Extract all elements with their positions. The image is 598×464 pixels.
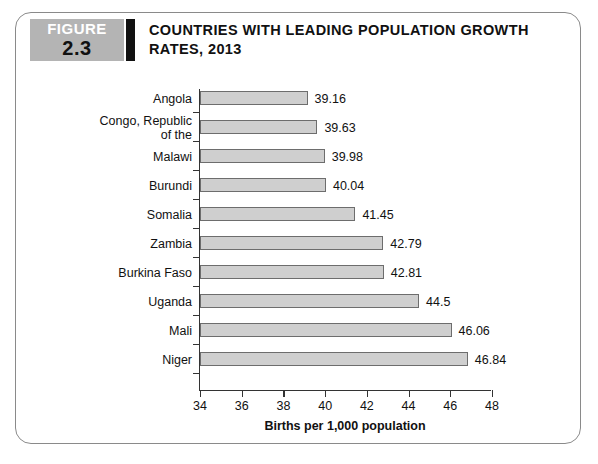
x-axis-tick	[283, 390, 284, 397]
y-axis-tick	[193, 344, 200, 345]
bar	[200, 294, 419, 308]
x-axis-tick	[242, 390, 243, 397]
bar-value-label: 41.45	[362, 208, 393, 222]
category-label: Zambia	[42, 237, 192, 251]
bar-value-label: 39.63	[324, 121, 355, 135]
category-label-line: Angola	[42, 92, 192, 106]
y-axis-tick	[193, 257, 200, 258]
y-axis-tick	[193, 199, 200, 200]
x-axis-tick-label: 48	[477, 399, 507, 413]
bar	[200, 178, 326, 192]
x-axis-tick-label: 42	[352, 399, 382, 413]
category-label: Somalia	[42, 208, 192, 222]
category-label-line: Burkina Faso	[42, 266, 192, 280]
bar-value-label: 46.84	[475, 353, 506, 367]
bar	[200, 323, 452, 337]
y-axis-tick	[193, 112, 200, 113]
bar-value-label: 46.06	[459, 324, 490, 338]
category-label-line: Zambia	[42, 237, 192, 251]
x-axis-tick-label: 36	[227, 399, 257, 413]
category-label-line: Congo, Republic	[42, 114, 192, 128]
x-axis-tick	[367, 390, 368, 397]
y-axis-tick	[193, 170, 200, 171]
figure-header: FIGURE 2.3 COUNTRIES WITH LEADING POPULA…	[16, 13, 582, 75]
category-label-line: Mali	[42, 324, 192, 338]
category-label: Burkina Faso	[42, 266, 192, 280]
x-axis-tick	[200, 390, 201, 397]
bar	[200, 207, 355, 221]
figure-badge-number: 2.3	[62, 37, 91, 59]
category-label-line: of the	[42, 128, 192, 142]
bar-value-label: 42.79	[390, 237, 421, 251]
x-axis-tick	[409, 390, 410, 397]
category-label-line: Niger	[42, 353, 192, 367]
bar	[200, 236, 383, 250]
x-axis-tick	[492, 390, 493, 397]
bar-value-label: 44.5	[426, 295, 450, 309]
category-label-line: Uganda	[42, 295, 192, 309]
figure-title: COUNTRIES WITH LEADING POPULATION GROWTH…	[149, 21, 569, 59]
category-label: Mali	[42, 324, 192, 338]
category-label-line: Burundi	[42, 179, 192, 193]
bar	[200, 265, 384, 279]
category-label: Uganda	[42, 295, 192, 309]
y-axis-tick	[193, 315, 200, 316]
bar	[200, 91, 308, 105]
category-label: Malawi	[42, 150, 192, 164]
category-label-line: Malawi	[42, 150, 192, 164]
figure-card: FIGURE 2.3 COUNTRIES WITH LEADING POPULA…	[15, 12, 581, 444]
category-label: Burundi	[42, 179, 192, 193]
bar-value-label: 39.98	[332, 150, 363, 164]
y-axis-tick	[193, 141, 200, 142]
y-axis-tick	[193, 373, 200, 374]
figure-badge-accent-bar	[126, 19, 135, 61]
x-axis-tick-label: 46	[435, 399, 465, 413]
category-label: Angola	[42, 92, 192, 106]
figure-badge-word: FIGURE	[47, 20, 107, 37]
x-axis-tick	[325, 390, 326, 397]
bar-value-label: 39.16	[315, 92, 346, 106]
x-axis-tick-label: 34	[185, 399, 215, 413]
bar-value-label: 40.04	[333, 179, 364, 193]
x-axis-tick-label: 38	[268, 399, 298, 413]
x-axis-tick	[450, 390, 451, 397]
category-label-line: Somalia	[42, 208, 192, 222]
bar	[200, 149, 325, 163]
x-axis-tick-label: 44	[394, 399, 424, 413]
y-axis-tick	[193, 286, 200, 287]
category-label: Niger	[42, 353, 192, 367]
figure-badge: FIGURE 2.3	[30, 19, 124, 61]
bar	[200, 120, 317, 134]
x-axis-tick-label: 40	[310, 399, 340, 413]
y-axis-tick	[193, 228, 200, 229]
x-axis-title: Births per 1,000 population	[199, 419, 491, 433]
bar-chart: Angola39.16Congo, Republicof the39.63Mal…	[16, 75, 582, 445]
category-label: Congo, Republicof the	[42, 114, 192, 142]
bar	[200, 352, 468, 366]
bar-value-label: 42.81	[391, 266, 422, 280]
